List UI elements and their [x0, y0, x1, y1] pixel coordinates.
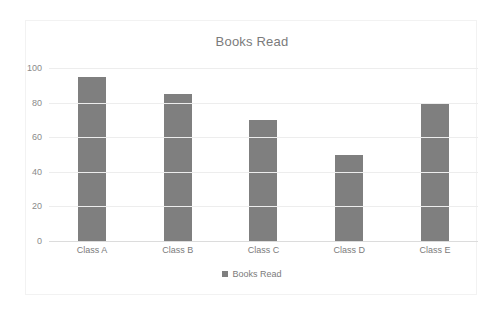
x-axis-labels: Class AClass BClass CClass DClass E [49, 245, 478, 261]
y-axis-tick-label: 100 [27, 63, 42, 73]
y-axis-tick-label: 0 [37, 236, 42, 246]
x-axis-tick-label: Class A [77, 245, 108, 255]
y-axis-tick-label: 20 [32, 201, 42, 211]
chart-title: Books Read [26, 34, 478, 49]
bar-slot [221, 68, 307, 241]
bar[interactable] [335, 155, 363, 242]
plot-area: 020406080100 [49, 68, 478, 241]
gridline [49, 103, 478, 104]
bar-slot [306, 68, 392, 241]
x-axis-tick-label: Class E [420, 245, 451, 255]
gridline [49, 137, 478, 138]
chart-legend: Books Read [26, 269, 478, 279]
chart-frame: Books Read 020406080100 Class AClass BCl… [25, 20, 477, 295]
bar[interactable] [164, 94, 192, 241]
axis-baseline [49, 241, 478, 242]
bar-slot [392, 68, 478, 241]
x-axis-tick-label: Class B [162, 245, 193, 255]
y-axis-tick-label: 60 [32, 132, 42, 142]
bar[interactable] [78, 77, 106, 241]
x-axis-tick-label: Class C [248, 245, 280, 255]
bar-series-books-read [49, 68, 478, 241]
y-axis-tick-label: 40 [32, 167, 42, 177]
legend-label: Books Read [232, 269, 281, 279]
x-axis-tick-label: Class D [334, 245, 366, 255]
gridline [49, 206, 478, 207]
gridline [49, 172, 478, 173]
gridline [49, 68, 478, 69]
bar-slot [135, 68, 221, 241]
y-axis-tick-label: 80 [32, 98, 42, 108]
bar-slot [49, 68, 135, 241]
legend-swatch-icon [222, 271, 228, 277]
